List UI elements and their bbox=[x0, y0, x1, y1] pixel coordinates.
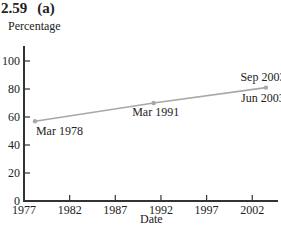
x-tick-label: 1977 bbox=[12, 203, 36, 217]
point-annotation: Mar 1978 bbox=[36, 124, 83, 138]
x-tick-label: 1982 bbox=[58, 203, 82, 217]
y-ticks: 020406080100 bbox=[2, 54, 30, 208]
x-ticks: 197719821987199219972002 bbox=[12, 195, 264, 217]
y-tick-label: 20 bbox=[8, 166, 20, 180]
line-chart: 020406080100 197719821987199219972002 Ma… bbox=[0, 0, 281, 231]
x-tick-label: 2002 bbox=[240, 203, 264, 217]
data-point bbox=[33, 119, 37, 123]
y-tick-label: 80 bbox=[8, 82, 20, 96]
point-annotation: Sep 2003 bbox=[240, 70, 281, 84]
x-tick-label: 1992 bbox=[149, 203, 173, 217]
annotations: Mar 1978Mar 1991Sep 2003Jun 2003 bbox=[36, 70, 281, 139]
data-point bbox=[264, 85, 268, 89]
x-tick-label: 1997 bbox=[195, 203, 219, 217]
point-annotation: Mar 1991 bbox=[132, 105, 179, 119]
y-tick-label: 60 bbox=[8, 110, 20, 124]
point-annotation: Jun 2003 bbox=[241, 91, 281, 105]
y-tick-label: 40 bbox=[8, 138, 20, 152]
y-tick-label: 100 bbox=[2, 54, 20, 68]
x-tick-label: 1987 bbox=[103, 203, 127, 217]
